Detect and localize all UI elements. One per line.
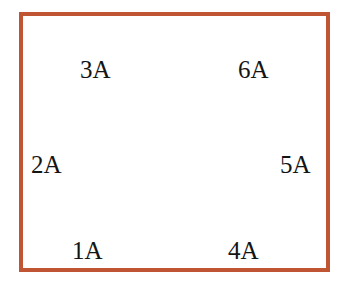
label-6A: 6A xyxy=(238,57,269,82)
figure-container: 1A 2A 3A 4A 5A 6A xyxy=(0,0,349,292)
label-1A: 1A xyxy=(72,238,103,263)
label-3A: 3A xyxy=(80,57,111,82)
label-5A: 5A xyxy=(280,152,311,177)
label-4A: 4A xyxy=(228,238,259,263)
figure-border xyxy=(19,12,330,272)
label-2A: 2A xyxy=(31,152,62,177)
